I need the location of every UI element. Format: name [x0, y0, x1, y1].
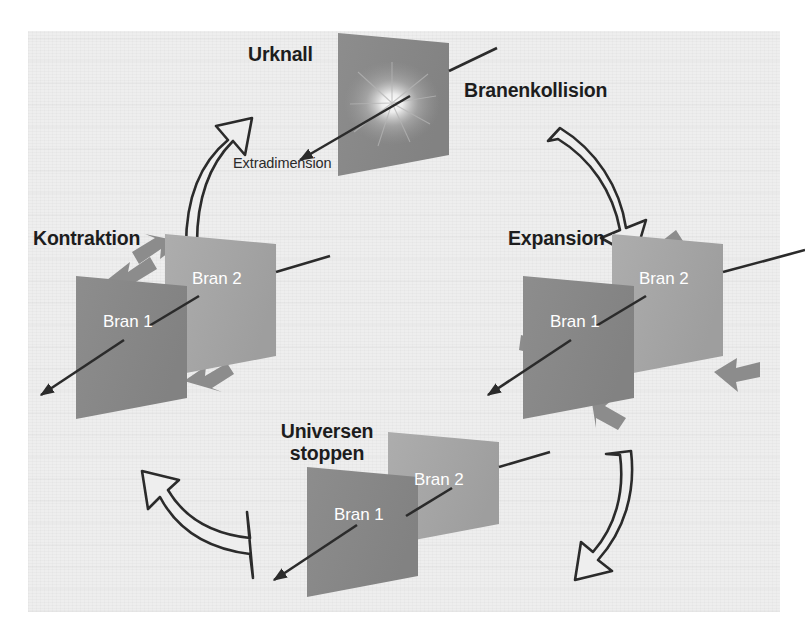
expansion-brane1: [523, 276, 634, 419]
universen-stoppen-title: Universen stoppen: [268, 421, 386, 465]
urknall-axis-right: [449, 48, 497, 71]
stoppen-axis-right: [499, 452, 550, 467]
stoppen-brane1: [307, 467, 418, 597]
urknall-title: Urknall: [248, 44, 313, 66]
expansion-arrow-right: [714, 358, 760, 392]
kontraktion-brane1-label: Bran 1: [103, 312, 153, 332]
expansion-brane1-label: Bran 1: [550, 312, 600, 332]
expansion-brane2-label: Bran 2: [639, 269, 689, 289]
branenkollision-title: Branenkollision: [464, 80, 607, 102]
kontraktion-brane1: [76, 276, 187, 419]
stoppen-brane1-label: Bran 1: [334, 505, 384, 525]
figure-page: Urknall Extradimension Branenkollision E…: [0, 0, 805, 637]
stoppen-brane2-label: Bran 2: [414, 470, 464, 490]
expansion-axis-right: [723, 250, 805, 272]
kontraktion-title: Kontraktion: [33, 228, 140, 250]
kontraktion-brane2-label: Bran 2: [192, 269, 242, 289]
stoppen-to-kontraktion-arrow: [142, 471, 253, 578]
expansion-title: Expansion: [508, 228, 605, 250]
expansion-to-stoppen-arrow: [575, 451, 632, 580]
stage-expansion: [488, 230, 805, 430]
extradimension-label: Extradimension: [233, 155, 332, 171]
kontraktion-axis-right: [276, 256, 330, 272]
stage-kontraktion: [41, 234, 330, 419]
